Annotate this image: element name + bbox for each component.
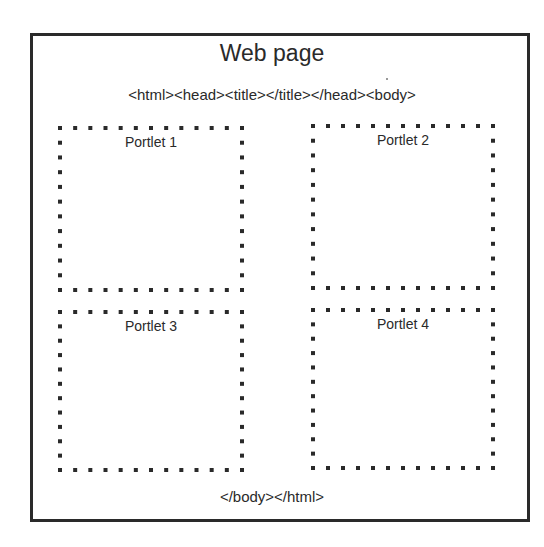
diagram-title: Web page: [0, 40, 544, 67]
portlet-3: Portlet 3: [58, 310, 244, 472]
portlet-1: Portlet 1: [58, 126, 244, 292]
portlet-2: Portlet 2: [311, 124, 495, 290]
dotted-border-icon: [311, 308, 495, 470]
opening-markup-label: <html><head><title></title></head><body>: [0, 86, 544, 103]
portlet-4-label: Portlet 4: [311, 316, 495, 332]
portlet-1-label: Portlet 1: [58, 134, 244, 150]
stray-dot: [386, 78, 388, 80]
dotted-border-icon: [311, 124, 495, 290]
portlet-4: Portlet 4: [311, 308, 495, 470]
portlet-2-label: Portlet 2: [311, 132, 495, 148]
closing-markup-label: </body></html>: [0, 488, 544, 505]
portlet-3-label: Portlet 3: [58, 318, 244, 334]
dotted-border-icon: [58, 310, 244, 472]
dotted-border-icon: [58, 126, 244, 292]
